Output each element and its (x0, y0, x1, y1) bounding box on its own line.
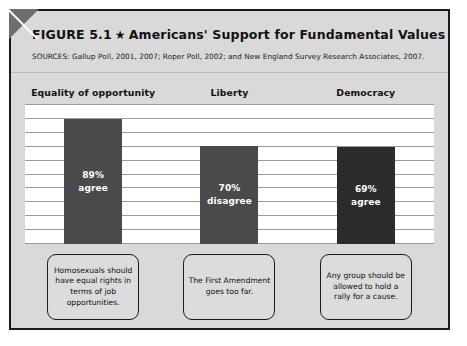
bar-response-democracy: agree (351, 196, 381, 209)
statement-slot-democracy: Any group should be allowed to hold a ra… (298, 254, 434, 326)
figure-number: FIGURE 5.1 (32, 27, 112, 42)
statement-box-democracy: Any group should be allowed to hold a ra… (320, 254, 412, 320)
bar-response-liberty: disagree (207, 195, 252, 208)
figure-sources: SOURCES: Gallup Poll, 2001, 2007; Roper … (32, 52, 436, 61)
bar-slot-democracy: 69% agree (298, 104, 434, 244)
bar-slot-liberty: 70% disagree (161, 104, 297, 244)
category-header-democracy: Democracy (298, 87, 434, 101)
folded-corner-decoration (9, 9, 39, 39)
bar-democracy: 69% agree (337, 147, 395, 244)
statement-slot-equality: Homosexuals should have equal rights in … (25, 254, 161, 326)
figure-title: FIGURE 5.1★Americans' Support for Fundam… (32, 27, 445, 42)
star-icon: ★ (112, 28, 129, 42)
bar-equality: 89% agree (64, 119, 122, 244)
plot-panel: 89% agree 70% disagree 69% agree (25, 104, 434, 244)
bar-response-equality: agree (78, 182, 108, 195)
statement-slot-liberty: The First Amendment goes too far. (161, 254, 297, 326)
bar-liberty: 70% disagree (200, 146, 258, 244)
chart-region: Equality of opportunity Liberty Democrac… (11, 73, 448, 328)
figure-title-text: Americans' Support for Fundamental Value… (129, 27, 446, 42)
figure-header: FIGURE 5.1★Americans' Support for Fundam… (11, 11, 448, 73)
statement-box-liberty: The First Amendment goes too far. (183, 254, 275, 320)
category-header-row: Equality of opportunity Liberty Democrac… (25, 87, 434, 101)
bar-percent-equality: 89% (82, 169, 104, 182)
figure-container: FIGURE 5.1★Americans' Support for Fundam… (9, 9, 450, 330)
bar-slot-equality: 89% agree (25, 104, 161, 244)
category-header-equality: Equality of opportunity (25, 87, 161, 101)
category-header-liberty: Liberty (161, 87, 297, 101)
statement-box-equality: Homosexuals should have equal rights in … (47, 254, 139, 320)
bar-percent-liberty: 70% (219, 182, 241, 195)
statement-row: Homosexuals should have equal rights in … (25, 254, 434, 326)
bar-percent-democracy: 69% (355, 183, 377, 196)
bars-layer: 89% agree 70% disagree 69% agree (25, 104, 434, 244)
